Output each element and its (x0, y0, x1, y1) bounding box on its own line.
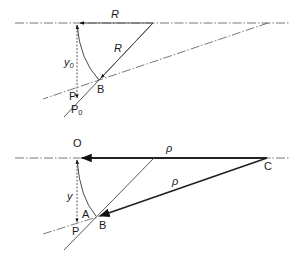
top-arc-curve (77, 25, 99, 80)
bottom-label-p: P (72, 225, 79, 237)
bottom-label-o: O (73, 137, 82, 149)
bottom-diagram: O ρ ρ C y A B P (15, 137, 290, 250)
top-diagram: R R y0 B P P0 (15, 8, 290, 117)
bottom-label-a: A (82, 208, 90, 220)
top-slanted-radius-arrow (101, 23, 153, 78)
top-label-p: P (69, 90, 76, 102)
top-label-p0: P0 (71, 103, 83, 117)
top-label-b: B (97, 83, 104, 95)
top-label-r-horizontal: R (111, 8, 119, 20)
top-label-y0: y0 (63, 56, 75, 70)
bottom-label-rho-slanted: ρ (171, 175, 178, 187)
bottom-label-b: B (99, 219, 106, 231)
top-label-r-slanted: R (114, 42, 122, 54)
geometry-diagram: R R y0 B P P0 O ρ ρ C y A B P (0, 0, 298, 263)
bottom-label-y: y (66, 190, 74, 202)
bottom-label-c: C (264, 160, 272, 172)
bottom-label-rho-horizontal: ρ (165, 142, 172, 154)
